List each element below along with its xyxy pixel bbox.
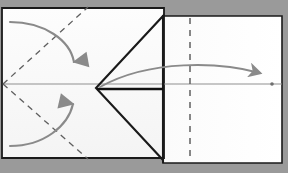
right-rect-panel xyxy=(163,16,282,163)
reference-dot-right xyxy=(270,82,274,86)
origami-diagram-canvas xyxy=(0,0,288,173)
diagram-svg xyxy=(0,0,288,173)
